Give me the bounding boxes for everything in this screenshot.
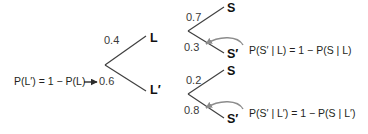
node-Sprime-upper: S′ xyxy=(227,48,238,61)
annotation-lower-label: P(S′ | L′) = 1 − P(S | L′) xyxy=(249,108,355,119)
root-annotation-label: P(L′) = 1 − P(L) xyxy=(14,76,85,87)
prob-label-Lprime: 0.6 xyxy=(99,76,114,87)
node-Sprime-lower: S′ xyxy=(227,113,238,126)
prob-label-S-lower: 0.2 xyxy=(186,75,201,86)
prob-label-Sprime-lower: 0.8 xyxy=(184,105,199,116)
prob-label-Sprime-upper: 0.3 xyxy=(184,42,199,53)
prob-label-L: 0.4 xyxy=(104,35,119,46)
curved-arrow-icon-upper xyxy=(206,38,243,45)
annotation-upper-label: P(S′ | L) = 1 − P(S | L) xyxy=(249,45,352,56)
node-S-lower: S xyxy=(227,65,235,78)
node-L: L xyxy=(150,32,158,45)
curved-arrow-icon-lower xyxy=(206,102,243,109)
prob-label-S-upper: 0.7 xyxy=(186,12,201,23)
probability-tree-diagram: P(L′) = 1 − P(L) 0.4 0.6 L L′ 0.7 0.3 S … xyxy=(0,0,368,134)
node-Lprime: L′ xyxy=(150,84,161,97)
node-S-upper: S xyxy=(227,2,235,15)
